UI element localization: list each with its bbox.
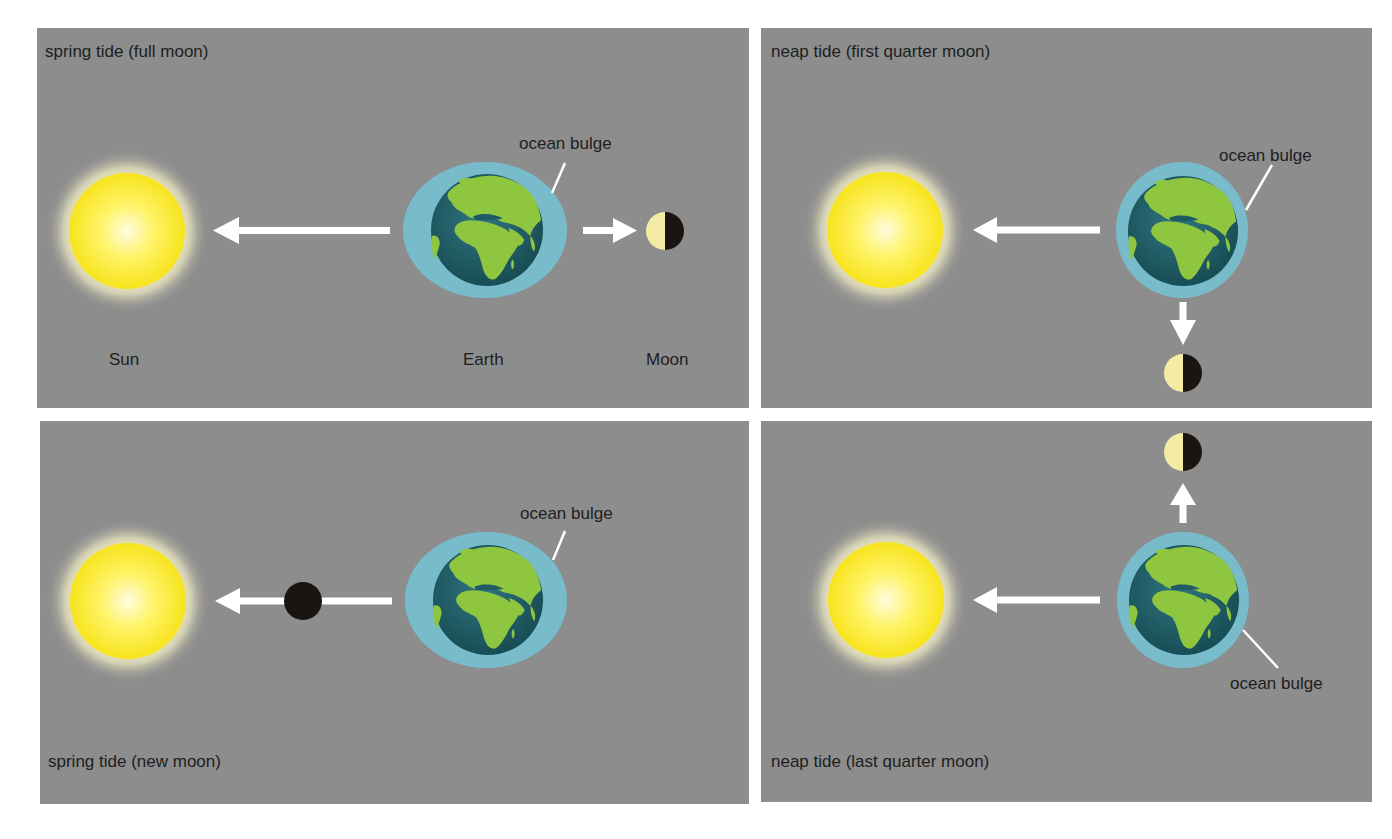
diagram-canvas — [761, 421, 1372, 802]
earth-label: Earth — [463, 350, 504, 370]
sun-icon — [45, 149, 209, 313]
sun-icon — [803, 148, 967, 312]
panel-neap-tide-first-quarter: neap tide (first quarter moon) ocean bul… — [761, 28, 1372, 408]
moon-full-icon — [646, 212, 684, 250]
diagram-canvas — [40, 421, 749, 804]
gravity-arrow-to-moon-icon — [1170, 302, 1196, 345]
ocean-bulge-pointer — [1243, 630, 1278, 668]
earth-icon — [1116, 162, 1248, 298]
gravity-arrow-to-sun-icon — [213, 217, 390, 244]
moon-last-quarter-icon — [1164, 433, 1202, 471]
gravity-arrow-to-moon-icon — [583, 218, 637, 243]
diagram-canvas — [761, 28, 1372, 408]
gravity-arrow-to-sun-icon — [973, 587, 1100, 613]
panel-neap-tide-last-quarter: neap tide (last quarter moon) ocean bulg… — [761, 421, 1372, 802]
gravity-arrow-to-moon-icon — [1170, 483, 1196, 523]
sun-icon — [804, 518, 968, 682]
ocean-bulge-pointer — [553, 531, 565, 560]
ocean-bulge-pointer — [1246, 165, 1272, 210]
ocean-bulge-label: ocean bulge — [1230, 674, 1323, 694]
ocean-bulge-label: ocean bulge — [520, 504, 613, 524]
earth-icon — [1117, 532, 1249, 668]
moon-label: Moon — [646, 350, 689, 370]
ocean-bulge-label: ocean bulge — [1219, 146, 1312, 166]
ocean-bulge-pointer — [552, 163, 565, 193]
earth-icon — [403, 162, 567, 298]
moon-first-quarter-icon — [1164, 354, 1202, 392]
panel-spring-tide-full-moon: spring tide (full moon) ocean bulge Sun … — [37, 28, 749, 408]
diagram-canvas — [37, 28, 749, 408]
gravity-arrow-to-sun-icon — [973, 217, 1100, 243]
sun-icon — [46, 519, 210, 683]
earth-icon — [405, 532, 567, 668]
sun-label: Sun — [109, 350, 139, 370]
ocean-bulge-label: ocean bulge — [519, 134, 612, 154]
moon-new-icon — [284, 582, 322, 620]
panel-spring-tide-new-moon: spring tide (new moon) ocean bulge — [40, 421, 749, 804]
